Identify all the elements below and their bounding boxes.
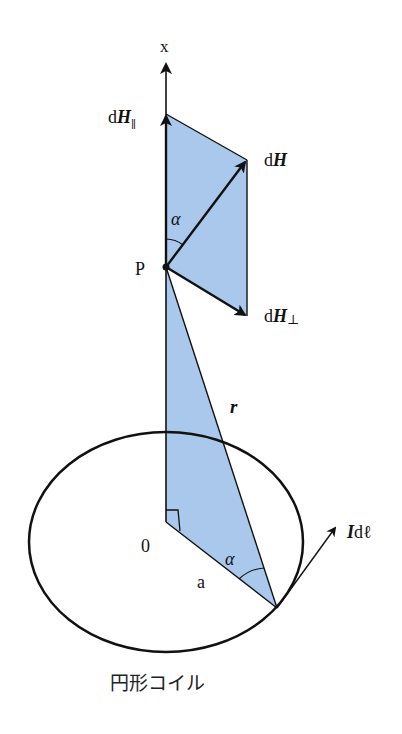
label-alpha-top: α: [171, 209, 181, 229]
biot-savart-coil-diagram: x dH∥ dH dH⊥ P α r 0 α a Idℓ 円形コイル: [0, 0, 402, 734]
label-alpha-bottom: α: [225, 549, 235, 569]
caption-circular-coil: 円形コイル: [110, 672, 205, 694]
label-dH: dH: [264, 150, 288, 170]
label-dH-parallel: dH∥: [108, 107, 136, 130]
current-element-vector: [277, 528, 335, 608]
label-origin: 0: [141, 536, 150, 556]
label-current-element: Idℓ: [346, 522, 372, 542]
label-r: r: [230, 396, 238, 417]
point-P-dot: [163, 264, 170, 271]
label-dH-perp: dH⊥: [264, 306, 299, 327]
label-radius-a: a: [197, 572, 205, 592]
x-axis-label-text: x: [160, 37, 169, 56]
label-P: P: [135, 259, 145, 279]
